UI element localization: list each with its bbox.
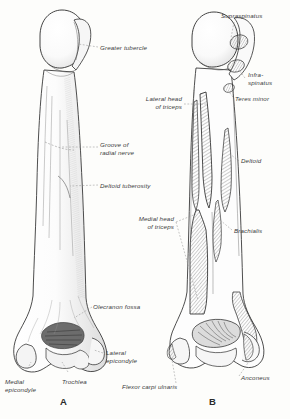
label-deltoid: Deltoid bbox=[241, 157, 261, 165]
label-flexor-carpi-ulnaris: Flexor carpi ulnaris bbox=[122, 383, 177, 391]
humerus-posterior bbox=[167, 12, 264, 368]
label-olecranon-fossa: Olecranon fossa bbox=[93, 303, 140, 311]
label-lateral-head-of-triceps: Lateral head of triceps bbox=[118, 95, 182, 110]
leader-flexor-carpi-ulnaris bbox=[172, 360, 176, 383]
humerus-anterior bbox=[14, 10, 107, 372]
label-supraspinatus: Supraspinatus bbox=[221, 12, 263, 20]
label-greater-tubercle: Greater tubercle bbox=[100, 44, 147, 52]
label-groove-of-radial-nerve: Groove of radial nerve bbox=[100, 141, 134, 156]
label-lateral-epicondyle: Lateral epicondyle bbox=[106, 349, 137, 364]
panel-letter-b: B bbox=[209, 396, 216, 407]
panel-letter-a: A bbox=[60, 396, 67, 407]
label-anconeus: Anconeus bbox=[241, 374, 270, 382]
medial-head-triceps-area bbox=[190, 210, 208, 314]
label-trochlea: Trochlea bbox=[62, 378, 87, 386]
label-deltoid-tuberosity: Deltoid tuberosity bbox=[100, 182, 151, 190]
label-infraspinatus: Infra- spinatus bbox=[248, 71, 272, 86]
humerus-illustration bbox=[0, 0, 290, 419]
label-medial-head-of-triceps: Medial head of triceps bbox=[110, 215, 174, 230]
label-medial-epicondyle: Medial epicondyle bbox=[5, 378, 36, 393]
figure-page: Greater tubercle Groove of radial nerve … bbox=[0, 0, 290, 419]
label-brachialis: Brachialis bbox=[234, 227, 262, 235]
label-teres-minor: Teres minor bbox=[235, 95, 269, 103]
